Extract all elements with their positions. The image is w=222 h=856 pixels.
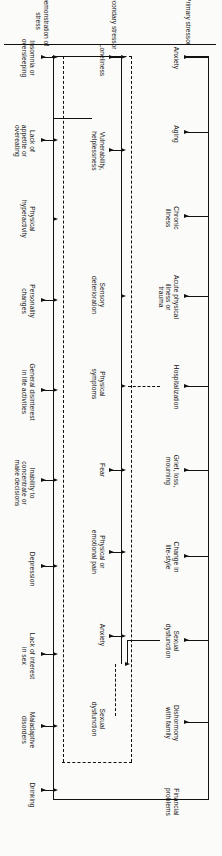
connector-loneliness-across bbox=[53, 118, 54, 140]
demo-dashed-arrow-5 bbox=[53, 388, 58, 392]
demo-solid-arrow-2 bbox=[41, 138, 46, 142]
demonstration-item-lack-of-appetite-or-overeating: Lack of appetite or overeating bbox=[13, 112, 36, 170]
primary-bus-rail bbox=[208, 56, 209, 800]
figure-stage: Primary stressor Secondary stressor Demo… bbox=[0, 0, 222, 856]
demonstration-item-maladaptive-disorders: Maladaptive disorders bbox=[21, 700, 36, 760]
secondary-dashed-arrow-3 bbox=[121, 294, 126, 298]
primary-arrow-3 bbox=[184, 214, 189, 218]
connector-sexual-dysfunction-across bbox=[127, 640, 128, 664]
secondary-stressor-item-loneliness: Loneliness bbox=[98, 32, 106, 88]
secondary-stressor-item-sensory-deterioration: Sensory deterioration bbox=[91, 264, 106, 326]
demo-dashed-arrow-8 bbox=[53, 652, 58, 656]
primary-stressor-item-dishormony-with-family: Dishormony with family bbox=[165, 692, 180, 754]
primary-arrow-6 bbox=[184, 468, 189, 472]
demo-solid-arrow-8 bbox=[41, 652, 46, 656]
primary-arrow-9 bbox=[184, 720, 189, 724]
primary-arrow-5 bbox=[184, 384, 189, 388]
primary-stressor-item-sexual-dysfunction: Sexual dysfunction bbox=[165, 612, 180, 670]
demonstration-item-general-disinterest-in-life-activities: General disinterest in life activities bbox=[21, 352, 36, 432]
connector-sexual-dysfunction-arrow bbox=[125, 662, 130, 666]
primary-arrow-7 bbox=[184, 554, 189, 558]
demonstration-item-drinking: Drinking bbox=[28, 766, 36, 824]
demo-solid-arrow-9 bbox=[41, 724, 46, 728]
primary-bus-right-riser bbox=[191, 799, 209, 800]
row-label-primary-stressor: Primary stressor bbox=[184, 0, 192, 58]
secondary-solid-arrow-2 bbox=[109, 148, 114, 152]
secondary-solid-arrow-5 bbox=[109, 468, 114, 472]
demo-dashed-bus-right-riser bbox=[62, 762, 132, 763]
secondary-solid-arrow-7 bbox=[109, 634, 114, 638]
primary-stressor-item-acute-physical-illness: Acute physical illness or trauma bbox=[157, 262, 180, 332]
secondary-dashed-arrow-7 bbox=[121, 634, 126, 638]
connector-loneliness-down bbox=[54, 118, 92, 119]
demo-dashed-arrow-4 bbox=[53, 298, 58, 302]
demo-solid-arrow-6 bbox=[41, 478, 46, 482]
secondary-solid-arrow-4 bbox=[121, 384, 126, 388]
primary-stressor-item-aging: Aging bbox=[172, 106, 180, 162]
secondary-stressor-item-physical-symptoms: Physical symptoms bbox=[91, 356, 106, 412]
primary-stressor-item-chronic-illness: Chronic illness bbox=[165, 190, 180, 246]
demo-solid-arrow-7 bbox=[41, 564, 46, 568]
connector-sexual-dysfunction-down bbox=[128, 640, 160, 641]
primary-stressor-item-hospitalization: Hospitalization bbox=[172, 352, 180, 422]
secondary-dashed-bus bbox=[131, 56, 132, 762]
demo-dashed-arrow-3 bbox=[53, 217, 58, 221]
secondary-solid-arrow-6 bbox=[109, 550, 114, 554]
demonstration-item-personality-changes: Personality changes bbox=[21, 272, 36, 330]
row-label-demonstration-of-stress: Demonstration of stress bbox=[34, 0, 50, 58]
demo-dashed-arrow-10 bbox=[53, 788, 58, 792]
primary-arrow-1 bbox=[184, 55, 189, 59]
row-label-secondary-stressor: Secondary stressor bbox=[110, 0, 118, 58]
primary-stressor-item-change-in-lifestyle: Change in life-style bbox=[165, 528, 180, 586]
secondary-stressor-item-sexual-dysfunction-2: Sexual dysfunction bbox=[91, 690, 106, 748]
demo-dashed-arrow-9 bbox=[53, 724, 58, 728]
demo-dashed-arrow-7 bbox=[53, 564, 58, 568]
demonstration-item-insomnia-or-oversleeping: Insomnia or oversleeping bbox=[21, 28, 36, 88]
demonstration-item-lack-of-interest-in-sex: Lack of interest in sex bbox=[21, 620, 36, 692]
primary-stressor-item-financial-problems: Financial problems bbox=[165, 772, 180, 832]
demo-solid-arrow-4 bbox=[41, 298, 46, 302]
secondary-stressor-item-fear: Fear bbox=[98, 444, 106, 496]
flow-diagram-canvas: Primary stressor Secondary stressor Demo… bbox=[0, 0, 222, 856]
demonstration-item-depression: Depression bbox=[28, 540, 36, 598]
connector-hospitalization-down bbox=[128, 386, 160, 387]
secondary-stressor-item-physical-or-emotional-pain: Physical or emotional pain bbox=[91, 518, 106, 586]
demonstration-item-inability-to-concentrate: Inability to concentrate or make decisio… bbox=[13, 448, 36, 518]
primary-arrow-4 bbox=[184, 294, 189, 298]
demo-dashed-arrow-6 bbox=[53, 478, 58, 482]
primary-stressor-item-grief-loss-mourning: Grief, loss, mourning bbox=[165, 442, 180, 500]
demo-dashed-arrow-1 bbox=[53, 55, 58, 59]
connector-anxiety-to-lack-of-interest bbox=[115, 664, 116, 716]
demo-dashed-bus bbox=[63, 56, 64, 762]
demo-solid-arrow-10 bbox=[41, 788, 46, 792]
demo-solid-bus bbox=[53, 56, 54, 800]
demo-solid-bus-right-riser bbox=[53, 799, 191, 800]
primary-arrow-8 bbox=[184, 638, 189, 642]
demo-solid-arrow-5 bbox=[41, 388, 46, 392]
secondary-dashed-arrow-2 bbox=[121, 148, 126, 152]
secondary-dashed-arrow-5 bbox=[121, 468, 126, 472]
primary-stressor-item-anxiety: Anxiety bbox=[172, 30, 180, 86]
demonstration-item-physical-hyperactivity: Physical hyperactivity bbox=[21, 188, 36, 250]
demo-solid-arrow-1 bbox=[41, 55, 46, 59]
secondary-stressor-item-anxiety: Anxiety bbox=[98, 608, 106, 662]
primary-arrow-2 bbox=[184, 130, 189, 134]
secondary-dashed-arrow-6 bbox=[121, 550, 126, 554]
secondary-stressor-item-vulnerability-helplessness: Vulnerability, helplessness bbox=[91, 120, 106, 182]
